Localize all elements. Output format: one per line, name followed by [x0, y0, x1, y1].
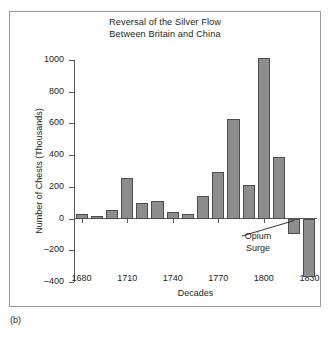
- figure-panel: Reversal of the Silver Flow Between Brit…: [0, 0, 333, 338]
- y-axis-tick: [69, 250, 74, 251]
- y-axis-tick-label: 800: [24, 86, 64, 96]
- chart-title-line-1: Reversal of the Silver Flow: [9, 16, 321, 28]
- y-axis-tick-label: –200: [24, 244, 64, 254]
- bar-1720: [136, 203, 148, 219]
- x-axis-tick: [173, 218, 174, 223]
- y-axis-tick-label: 1000: [24, 54, 64, 64]
- bar-1760: [197, 196, 209, 218]
- y-axis-tick: [69, 123, 74, 124]
- x-axis-tick: [264, 218, 265, 223]
- annotation-line-2: Surge: [228, 243, 288, 255]
- bar-1830: [303, 219, 315, 278]
- bar-1800: [258, 58, 270, 218]
- figure-caption: (b): [10, 315, 21, 325]
- bar-1790: [243, 185, 255, 218]
- y-axis-tick-label: 400: [24, 149, 64, 159]
- x-axis-tick-label: 1770: [198, 273, 238, 283]
- chart-title: Reversal of the Silver Flow Between Brit…: [9, 16, 321, 40]
- bar-1750: [182, 214, 194, 219]
- opium-surge-annotation: Opium Surge: [228, 231, 288, 254]
- y-axis-tick: [69, 155, 74, 156]
- y-axis-tick: [69, 92, 74, 93]
- y-axis-line: [74, 60, 75, 282]
- y-axis-tick: [69, 187, 74, 188]
- bar-1680: [76, 214, 88, 219]
- bar-1710: [121, 178, 133, 218]
- bar-1820: [288, 219, 300, 234]
- chart-title-line-2: Between Britain and China: [9, 28, 321, 40]
- x-axis-tick-label: 1680: [62, 273, 102, 283]
- x-axis-tick-label: 1710: [107, 273, 147, 283]
- bar-1730: [151, 201, 163, 218]
- y-axis-tick-label: 0: [24, 213, 64, 223]
- x-axis-tick-label: 1800: [244, 273, 284, 283]
- y-axis-tick-label: 600: [24, 117, 64, 127]
- bar-1770: [212, 172, 224, 219]
- y-axis-tick: [69, 60, 74, 61]
- x-axis-title: Decades: [74, 288, 317, 298]
- annotation-line-1: Opium: [228, 231, 288, 243]
- bar-1780: [227, 119, 239, 219]
- x-axis-tick: [218, 218, 219, 223]
- y-axis-tick-label: –400: [24, 276, 64, 286]
- bar-1740: [167, 212, 179, 218]
- bar-1690: [91, 216, 103, 218]
- y-axis-tick-label: 200: [24, 181, 64, 191]
- x-axis-tick: [82, 218, 83, 223]
- y-axis-tick: [69, 219, 74, 220]
- bar-1700: [106, 210, 118, 219]
- y-axis-title: Number of Chests (Thousands): [34, 71, 44, 271]
- x-axis-tick-label: 1740: [153, 273, 193, 283]
- bar-1810: [273, 157, 285, 219]
- x-axis-tick: [127, 218, 128, 223]
